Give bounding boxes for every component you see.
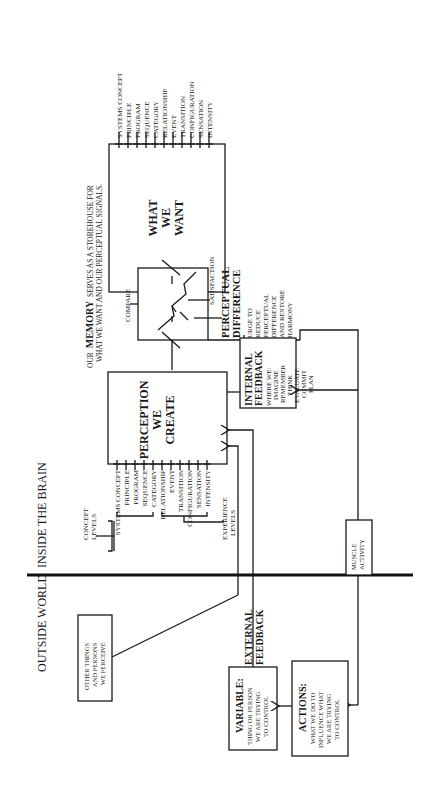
svg-text:MUSCLE: MUSCLE: [350, 544, 357, 570]
compare-label: COMPARE: [124, 289, 132, 322]
want-levels: SYSTEMS CONCEPT PRINCIPLE PROGRAM SEQUEN…: [115, 72, 214, 148]
svg-text:WE: WE: [150, 410, 164, 430]
svg-text:RELATIONSHIP: RELATIONSHIP: [159, 470, 167, 519]
svg-text:FEEDBACK: FEEDBACK: [253, 350, 264, 406]
svg-text:WHAT WE DO TO: WHAT WE DO TO: [309, 692, 316, 744]
svg-text:EVALUATE: EVALUATE: [293, 368, 300, 403]
svg-text:REDUCE: REDUCE: [254, 310, 262, 338]
svg-text:RELATIONSHIP: RELATIONSHIP: [161, 89, 169, 138]
output-path-line: [300, 330, 358, 530]
svg-text:VARIABLE:: VARIABLE:: [234, 678, 245, 733]
svg-text:SYSTEMS CONCEPT: SYSTEMS CONCEPT: [116, 72, 124, 138]
svg-text:THING OR PERSON: THING OR PERSON: [246, 687, 253, 745]
concept-levels-label: CONCEPT LEVELS: [82, 507, 98, 540]
svg-text:PROGRAM: PROGRAM: [132, 469, 140, 504]
svg-text:WHAT WE WANT AND OUR PERCEPTUA: WHAT WE WANT AND OUR PERCEPTUAL SIGNALS.: [95, 184, 104, 362]
other-things-line: [112, 595, 238, 657]
svg-text:URGE TO: URGE TO: [246, 308, 254, 338]
svg-text:ACTIVITY: ACTIVITY: [358, 539, 365, 570]
svg-text:SENSATION: SENSATION: [197, 100, 205, 138]
svg-text:PERCEPTUAL: PERCEPTUAL: [220, 267, 231, 338]
satisfaction-label: SATISFACTION: [208, 257, 216, 306]
svg-text:SEQUENCE: SEQUENCE: [141, 470, 149, 507]
svg-text:AND RESTORE: AND RESTORE: [278, 290, 286, 338]
svg-text:OTHER THINGS: OTHER THINGS: [83, 643, 90, 690]
svg-text:TO CONTROL: TO CONTROL: [333, 699, 340, 740]
svg-text:PRINCIPLE: PRINCIPLE: [125, 103, 133, 138]
svg-text:CATEGORY: CATEGORY: [152, 101, 160, 138]
svg-text:INTENSITY: INTENSITY: [206, 101, 214, 138]
svg-text:TRANSITION: TRANSITION: [179, 96, 187, 138]
svg-text:CREATE: CREATE: [163, 395, 177, 444]
svg-text:LEVELS: LEVELS: [90, 514, 98, 540]
svg-text:INFLUENCE WHAT: INFLUENCE WHAT: [317, 692, 324, 748]
memory-caption: OUR MEMORY SERVES AS A STOREHOUSE FOR WH…: [84, 184, 104, 368]
svg-text:PERCEPTUAL: PERCEPTUAL: [262, 294, 270, 338]
svg-text:ACTIONS:: ACTIONS:: [297, 683, 308, 732]
svg-text:TO CONTROL: TO CONTROL: [262, 696, 269, 737]
svg-text:CONCEPT: CONCEPT: [82, 507, 90, 540]
svg-text:REMEMBER: REMEMBER: [279, 364, 286, 403]
svg-text:FEEDBACK: FEEDBACK: [254, 609, 265, 665]
svg-text:WE PERCEIVE: WE PERCEIVE: [99, 642, 106, 685]
svg-text:COMMIT: COMMIT: [300, 369, 307, 398]
svg-text:WE: WE: [159, 208, 173, 228]
svg-text:SEQUENCE: SEQUENCE: [143, 101, 151, 138]
urge-label: URGE TO REDUCE PERCEPTUAL DIFFERENCE AND…: [246, 290, 294, 338]
svg-text:OUR MEMORY SERVES: OUR MEMORY SERVES AS A STOREHOUSE FOR: [84, 185, 95, 368]
svg-text:EVENT: EVENT: [170, 114, 178, 138]
external-feedback-arrow-1: [229, 430, 253, 575]
svg-text:PRINCIPLE: PRINCIPLE: [123, 470, 131, 505]
svg-text:DIFFERENCE: DIFFERENCE: [231, 270, 242, 338]
svg-text:DIFFERENCE: DIFFERENCE: [270, 296, 278, 338]
svg-text:AND PERSONS: AND PERSONS: [91, 642, 98, 687]
svg-text:INTENSITY: INTENSITY: [204, 470, 212, 507]
inside-brain-label: INSIDE THE BRAIN: [35, 462, 49, 568]
svg-text:THINK: THINK: [286, 375, 293, 396]
svg-text:CONFIGURATION: CONFIGURATION: [188, 81, 196, 138]
svg-text:PROGRAM: PROGRAM: [134, 103, 142, 138]
svg-text:WHAT: WHAT: [146, 199, 160, 236]
svg-text:LEVELS: LEVELS: [229, 510, 237, 536]
external-feedback-label: EXTERNAL FEEDBACK: [243, 609, 265, 665]
svg-text:WE ARE TRYING: WE ARE TRYING: [254, 692, 261, 742]
concept-group-bracket: [117, 512, 153, 516]
svg-text:SENSATION: SENSATION: [195, 470, 203, 508]
svg-text:EXTERNAL: EXTERNAL: [243, 609, 254, 665]
svg-text:TRANSITION: TRANSITION: [177, 470, 185, 512]
svg-text:CATEGORY: CATEGORY: [150, 470, 158, 507]
svg-text:SYSTEMS CONCEPT: SYSTEMS CONCEPT: [114, 469, 122, 535]
other-things-label: OTHER THINGS AND PERSONS WE PERCEIVE: [83, 642, 106, 690]
control-diagram: OUTSIDE WORLD INSIDE THE BRAIN OUR MEMOR…: [0, 0, 436, 799]
svg-text:WANT: WANT: [172, 200, 186, 236]
svg-text:WHERE WE:: WHERE WE:: [265, 368, 272, 406]
compare-box: [138, 268, 208, 340]
svg-text:WE ARE TRYING: WE ARE TRYING: [325, 694, 332, 744]
svg-text:CONFIGURATION: CONFIGURATION: [186, 470, 194, 527]
outside-world-label: OUTSIDE WORLD: [35, 574, 49, 672]
perception-levels: SYSTEMS CONCEPT PRINCIPLE PROGRAM SEQUEN…: [113, 460, 212, 535]
svg-text:IMAGINE: IMAGINE: [272, 371, 279, 400]
svg-text:HARMONY: HARMONY: [286, 302, 294, 338]
svg-text:PERCEPTION: PERCEPTION: [137, 380, 151, 459]
perceptual-difference-label: PERCEPTUAL DIFFERENCE: [220, 267, 242, 338]
svg-text:EVENT: EVENT: [168, 469, 176, 493]
muscle-activity-label: MUSCLE ACTIVITY: [350, 539, 365, 570]
svg-text:EXPERIENCE: EXPERIENCE: [221, 497, 229, 540]
experience-levels-label: EXPERIENCE LEVELS: [221, 497, 237, 540]
